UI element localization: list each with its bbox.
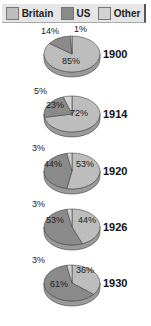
year-label: 1900 (103, 48, 127, 60)
label-other: 3% (32, 255, 45, 265)
label-britain: 85% (62, 56, 80, 66)
legend: Britain US Other (2, 4, 146, 23)
legend-label: Other (114, 8, 141, 19)
britain-swatch-icon (6, 7, 19, 20)
pie-chart-1914: 72%23%5%1914 (0, 88, 151, 148)
label-other: 3% (32, 199, 45, 209)
year-label: 1926 (103, 221, 127, 233)
year-label: 1914 (103, 108, 127, 120)
label-other: 3% (32, 143, 45, 153)
pie-chart-1900: 85%14%1%1900 (0, 28, 151, 88)
year-label: 1930 (103, 277, 127, 289)
legend-label: US (77, 8, 91, 19)
label-other: 5% (34, 86, 47, 96)
label-us: 53% (46, 215, 64, 225)
label-us: 23% (46, 100, 64, 110)
us-swatch-icon (61, 7, 74, 20)
label-us: 44% (44, 159, 62, 169)
label-us: 61% (50, 279, 68, 289)
legend-item-us: US (61, 7, 91, 20)
label-britain: 53% (76, 159, 94, 169)
label-britain: 36% (76, 265, 94, 275)
label-us: 14% (41, 26, 59, 36)
pie-chart-1926: 44%53%3%1926 (0, 201, 151, 261)
pie-chart-1930: 36%61%3%1930 (0, 257, 151, 317)
pie-chart-1920: 53%44%3%1920 (0, 145, 151, 205)
year-label: 1920 (103, 165, 127, 177)
other-swatch-icon (98, 7, 111, 20)
label-britain: 72% (70, 108, 88, 118)
legend-item-britain: Britain (6, 7, 54, 20)
legend-item-other: Other (98, 7, 141, 20)
legend-label: Britain (22, 8, 54, 19)
label-britain: 44% (78, 215, 96, 225)
label-other: 1% (74, 24, 87, 34)
